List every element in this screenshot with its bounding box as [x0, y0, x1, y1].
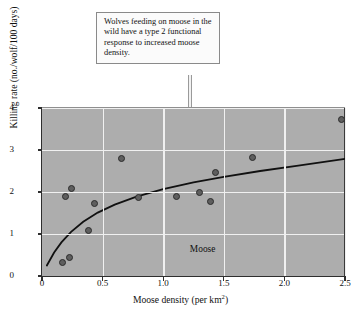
y-axis-tick: [38, 149, 42, 150]
x-axis-tick-label: 0: [27, 278, 57, 288]
y-axis-title: Killing rate (no./wolf/100 days): [8, 0, 19, 153]
x-axis-title-main: Moose density (per km: [133, 294, 222, 305]
x-axis-tick-label: 1.5: [209, 278, 239, 288]
data-point: [59, 259, 66, 266]
gridline-vertical: [163, 108, 164, 276]
y-axis-tick-label: 1: [0, 228, 14, 238]
y-axis-tick-label: 0: [0, 270, 14, 280]
gridline-horizontal: [42, 234, 344, 235]
data-point: [62, 193, 69, 200]
y-axis-tick: [38, 191, 42, 192]
callout-text: Wolves feeding on moose in the wild have…: [104, 17, 211, 57]
data-point: [85, 227, 92, 234]
data-point: [212, 169, 219, 176]
series-annotation-moose: Moose: [190, 244, 216, 254]
callout-annotation: Wolves feeding on moose in the wild have…: [96, 12, 220, 64]
x-axis-tick-label: 2.0: [269, 278, 299, 288]
y-axis-tick-label: 4: [0, 102, 14, 112]
x-axis-tick-label: 0.5: [88, 278, 118, 288]
chart-figure: Wolves feeding on moose in the wild have…: [0, 0, 361, 317]
gridline-vertical: [345, 108, 346, 276]
y-axis-tick: [38, 107, 42, 108]
y-axis-tick: [38, 233, 42, 234]
gridline-vertical: [103, 108, 104, 276]
y-axis-tick-label: 3: [0, 144, 14, 154]
data-point: [91, 200, 98, 207]
x-axis-tick-label: 2.5: [330, 278, 360, 288]
data-point: [207, 198, 214, 205]
data-point: [68, 185, 75, 192]
gridline-horizontal: [42, 150, 344, 151]
gridline-horizontal: [42, 192, 344, 193]
gridline-horizontal: [42, 108, 344, 109]
x-axis-tick-label: 1.0: [148, 278, 178, 288]
y-axis-tick-label: 2: [0, 186, 14, 196]
x-axis-title-tail: ): [225, 294, 228, 305]
x-axis-title: Moose density (per km2): [0, 293, 361, 305]
gridline-vertical: [284, 108, 285, 276]
gridline-vertical: [224, 108, 225, 276]
plot-area: Moose: [42, 108, 345, 276]
